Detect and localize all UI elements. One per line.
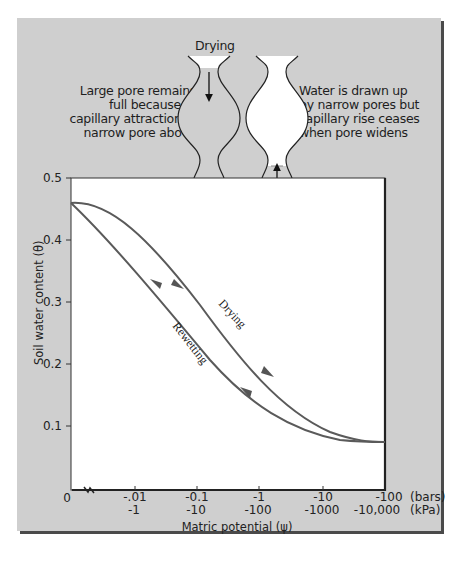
x-axis-labels: 0 -.01 -0.1 -1 -10 -100 (bars) -1 -10 -1… <box>63 490 445 534</box>
svg-text:-0.1: -0.1 <box>185 490 208 504</box>
y-axis-title: Soil water content (θ) <box>32 241 46 366</box>
x-unit-kpa: (kPa) <box>410 503 440 517</box>
plot-area: Drying Rewetting <box>66 178 386 493</box>
svg-text:0.1: 0.1 <box>43 419 62 433</box>
svg-text:-100: -100 <box>375 490 402 504</box>
svg-text:-.01: -.01 <box>123 490 146 504</box>
left-pore-illustration <box>178 56 240 178</box>
svg-text:-1: -1 <box>128 503 140 517</box>
svg-text:-10: -10 <box>313 490 333 504</box>
svg-text:-10: -10 <box>186 503 206 517</box>
right-pore-illustration <box>246 56 308 180</box>
svg-text:-1000: -1000 <box>305 503 340 517</box>
x-axis-title: Matric potential (ψ) <box>182 520 293 534</box>
svg-text:-100: -100 <box>244 503 271 517</box>
svg-text:0: 0 <box>63 491 71 505</box>
x-unit-bars: (bars) <box>410 490 446 504</box>
svg-text:-10,000: -10,000 <box>354 503 400 517</box>
y-axis-labels: 0.5 0.4 0.3 0.2 0.1 Soil water content (… <box>32 171 62 433</box>
figure-svg: Drying Rewetting 0.5 0.4 0.3 0.2 0.1 Soi… <box>0 0 467 561</box>
svg-text:-1: -1 <box>253 490 265 504</box>
svg-text:0.5: 0.5 <box>43 171 62 185</box>
